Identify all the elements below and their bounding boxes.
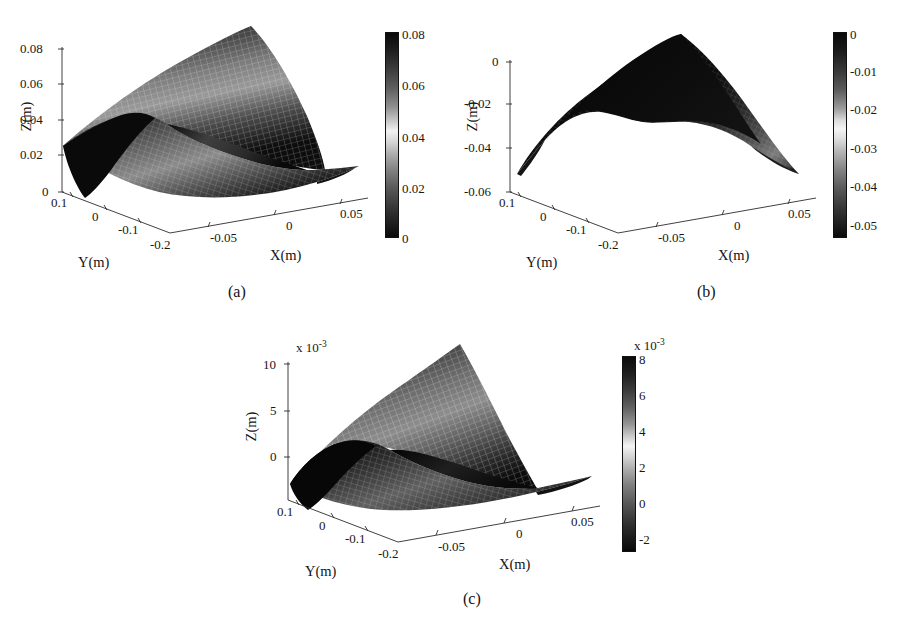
panel-a-caption: (a) xyxy=(228,283,246,301)
colorbar-b: 0 -0.01 -0.02 -0.03 -0.04 -0.05 xyxy=(833,32,893,242)
panel-b-x-tick-1: 0 xyxy=(734,219,741,232)
colorbar-b-tick-4: -0.04 xyxy=(850,180,877,193)
panel-b-x-tick-0: -0.05 xyxy=(658,231,685,244)
colorbar-a-tick-4: 0 xyxy=(402,232,409,245)
panel-c-z-axis-title: Z(m) xyxy=(243,397,260,457)
colorbar-c-tick-0: 8 xyxy=(639,353,646,366)
colorbar-a: 0.08 0.06 0.04 0.02 0 xyxy=(385,32,445,242)
panel-b-y-tick-2: -0.1 xyxy=(566,223,587,236)
colorbar-b-tick-0: 0 xyxy=(850,28,857,41)
panel-c-x-tick-1: 0 xyxy=(516,527,523,540)
panel-a-y-tick-2: -0.1 xyxy=(118,223,139,236)
colorbar-c-exponent: x 10-3 xyxy=(634,338,665,352)
panel-c-y-tick-1: 0 xyxy=(319,519,326,532)
colorbar-b-tick-3: -0.03 xyxy=(850,142,877,155)
panel-a-x-tick-2: 0.05 xyxy=(340,207,363,220)
panel-b: 0 -0.02 -0.04 -0.06 0.1 0 -0.1 -0.2 -0.0… xyxy=(448,0,898,315)
panel-c-z-tick-1: 5 xyxy=(270,404,277,417)
colorbar-c-tick-2: 4 xyxy=(639,425,646,438)
axes-frame-c xyxy=(222,318,682,628)
panel-b-y-axis-title: Y(m) xyxy=(526,255,557,270)
panel-c-y-tick-3: -0.2 xyxy=(378,547,399,560)
colorbar-a-gradient xyxy=(385,32,399,238)
colorbar-a-tick-3: 0.02 xyxy=(402,182,425,195)
panel-c-x-axis-title: X(m) xyxy=(499,557,530,572)
panel-b-z-tick-0: 0 xyxy=(492,55,499,68)
panel-a-y-axis-title: Y(m) xyxy=(78,255,109,270)
colorbar-a-tick-2: 0.04 xyxy=(402,131,425,144)
colorbar-b-tick-5: -0.05 xyxy=(850,219,877,232)
panel-a-y-tick-3: -0.2 xyxy=(150,238,171,251)
panel-b-x-axis-title: X(m) xyxy=(718,248,749,263)
panel-b-y-tick-0: 0.1 xyxy=(499,196,515,209)
panel-a-y-tick-1: 0 xyxy=(92,210,99,223)
panel-a-x-axis-title: X(m) xyxy=(270,248,301,263)
colorbar-c: x 10-3 8 6 4 2 0 -2 xyxy=(622,356,682,556)
panel-c-x-tick-2: 0.05 xyxy=(571,515,594,528)
panel-c-z-exponent-mantissa: x 10 xyxy=(296,340,319,355)
panel-a-x-tick-0: -0.05 xyxy=(210,231,237,244)
panel-a-x-tick-1: 0 xyxy=(286,219,293,232)
panel-b-z-axis-title: Z(m) xyxy=(464,87,481,147)
panel-a-z-tick-1: 0.02 xyxy=(20,148,43,161)
colorbar-b-tick-2: -0.02 xyxy=(850,103,877,116)
colorbar-b-gradient xyxy=(833,32,847,238)
panel-c-z-exponent-power: -3 xyxy=(319,339,327,349)
panel-b-y-tick-3: -0.2 xyxy=(598,238,619,251)
panel-b-caption: (b) xyxy=(697,283,716,301)
panel-c-z-exponent: x 10-3 xyxy=(296,340,327,354)
axes-frame-b xyxy=(448,0,898,315)
panel-c-x-tick-0: -0.05 xyxy=(438,540,465,553)
panel-a-z-tick-0: 0 xyxy=(42,185,49,198)
panel-c-z-tick-0: 10 xyxy=(263,358,276,371)
panel-a-z-tick-4: 0.08 xyxy=(20,42,43,55)
colorbar-c-tick-1: 6 xyxy=(639,389,646,402)
panel-c-y-tick-2: -0.1 xyxy=(345,532,366,545)
panel-a: 0 0.02 0.04 0.06 0.08 0.1 0 -0.1 -0.2 -0… xyxy=(0,0,450,315)
panel-c-z-tick-2: 0 xyxy=(270,450,277,463)
colorbar-c-exponent-power: -3 xyxy=(657,337,665,347)
colorbar-c-tick-5: -2 xyxy=(639,533,650,546)
figure-canvas: 0 0.02 0.04 0.06 0.08 0.1 0 -0.1 -0.2 -0… xyxy=(0,0,898,628)
colorbar-c-tick-3: 2 xyxy=(639,461,646,474)
colorbar-a-tick-0: 0.08 xyxy=(402,28,425,41)
panel-a-z-axis-title: Z(m) xyxy=(18,87,35,147)
colorbar-c-tick-4: 0 xyxy=(639,497,646,510)
axes-frame-a xyxy=(0,0,450,315)
panel-c-y-axis-title: Y(m) xyxy=(305,564,336,579)
panel-c-caption: (c) xyxy=(463,590,481,608)
panel-b-y-tick-1: 0 xyxy=(540,210,547,223)
panel-c: x 10-3 10 5 0 0.1 0 -0.1 -0.2 -0.05 0 0.… xyxy=(222,318,682,628)
colorbar-b-tick-1: -0.01 xyxy=(850,65,877,78)
panel-c-y-tick-0: 0.1 xyxy=(277,505,293,518)
colorbar-a-tick-1: 0.06 xyxy=(402,79,425,92)
panel-b-x-tick-2: 0.05 xyxy=(788,207,811,220)
colorbar-c-gradient xyxy=(622,356,636,552)
panel-a-y-tick-0: 0.1 xyxy=(51,196,67,209)
panel-b-z-tick-3: -0.06 xyxy=(464,185,491,198)
